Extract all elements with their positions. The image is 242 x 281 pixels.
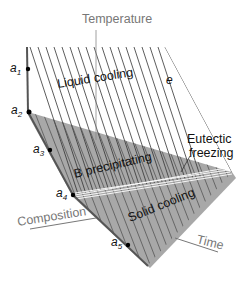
time-label: Time	[195, 232, 225, 252]
cooling-path-diagram: Temperature Liquid cooling e B precipita…	[0, 0, 242, 281]
a3-label: a3	[33, 142, 45, 158]
e-label: e	[166, 73, 173, 87]
a4-label: a4	[56, 186, 68, 202]
point-a5	[126, 243, 130, 247]
a1-label: a1	[10, 61, 21, 77]
point-a1	[26, 67, 30, 71]
point-a3	[48, 148, 52, 152]
eutectic-label: Eutectic	[187, 132, 231, 146]
freezing-label: freezing	[189, 146, 234, 160]
a2-label: a2	[11, 103, 23, 119]
point-a4	[71, 193, 75, 197]
liquid-cooling-label: Liquid cooling	[56, 65, 134, 91]
point-a2	[27, 110, 32, 115]
temperature-label: Temperature	[82, 12, 152, 26]
